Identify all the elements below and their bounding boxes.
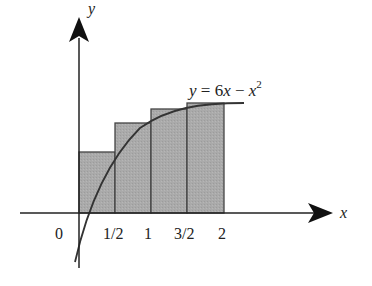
rectangles — [79, 103, 224, 213]
rectangle-1 — [79, 152, 115, 213]
function-label: y = 6x − x2 — [187, 78, 262, 100]
origin-label: 0 — [55, 225, 63, 242]
x-tick-label-two: 2 — [218, 225, 226, 242]
rectangle-3 — [151, 109, 187, 213]
x-axis-label: x — [339, 204, 347, 221]
x-tick-label-three-halves: 3/2 — [174, 225, 194, 242]
riemann-sum-diagram: y x 0 1/2 1 3/2 2 y = 6x − x2 — [0, 0, 372, 286]
x-tick-label-half: 1/2 — [103, 225, 123, 242]
x-tick-label-one: 1 — [144, 225, 152, 242]
function-label-exponent: 2 — [256, 78, 262, 90]
y-axis-label: y — [86, 0, 96, 18]
rectangle-4 — [187, 103, 224, 213]
